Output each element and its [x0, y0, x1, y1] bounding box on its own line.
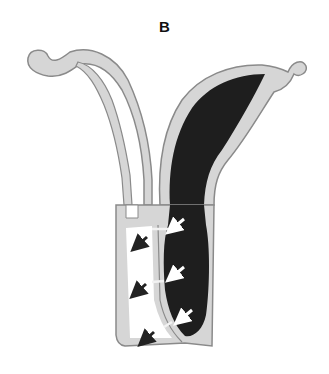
dark-contents-upper: [170, 74, 265, 205]
right-branch: [160, 62, 307, 205]
lower-tube: [116, 205, 214, 346]
left-branch: [28, 50, 152, 205]
tube-diagram: [0, 0, 329, 374]
